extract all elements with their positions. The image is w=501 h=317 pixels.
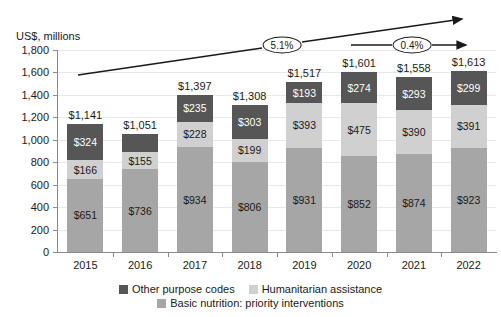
x-axis-tick-mark bbox=[441, 252, 442, 257]
bar-segment[interactable]: $228 bbox=[177, 122, 213, 148]
legend-item[interactable]: Other purpose codes bbox=[119, 283, 235, 295]
bar-segment[interactable]: $806 bbox=[232, 162, 268, 252]
growth-badge-5-1: 5.1% bbox=[263, 37, 302, 54]
legend-item[interactable]: Humanitarian assistance bbox=[249, 283, 382, 295]
y-axis-tick-label: 1,400 bbox=[5, 89, 49, 101]
bar-total-label: $1,308 bbox=[233, 90, 267, 102]
trend-line-long-tail bbox=[302, 19, 462, 42]
bar-stack[interactable]: $923$391$299$1,613 bbox=[451, 71, 487, 252]
legend-item-label: Basic nutrition: priority interventions bbox=[170, 297, 344, 309]
bar-segment[interactable]: $931 bbox=[286, 148, 322, 252]
bar-segment[interactable]: $923 bbox=[451, 148, 487, 252]
x-axis-tick-mark bbox=[277, 252, 278, 257]
bar-stack[interactable]: $806$199$303$1,308 bbox=[232, 105, 268, 252]
y-axis-tick-label: 400 bbox=[5, 201, 49, 213]
bar-segment[interactable]: $274 bbox=[341, 72, 377, 103]
bar-total-label: $1,141 bbox=[69, 109, 103, 121]
bar-segment[interactable]: $934 bbox=[177, 147, 213, 252]
x-axis-category-label: 2020 bbox=[347, 259, 371, 271]
bar-stack[interactable]: $852$475$274$1,601 bbox=[341, 72, 377, 252]
bar-stack[interactable]: $874$390$293$1,558 bbox=[396, 77, 432, 252]
y-axis-tick-label: 1,600 bbox=[5, 66, 49, 78]
bar-segment[interactable]: $303 bbox=[232, 105, 268, 139]
bar-total-label: $1,613 bbox=[452, 56, 486, 68]
bar-stack[interactable]: $934$228$235$1,397 bbox=[177, 95, 213, 252]
legend-swatch-icon bbox=[249, 285, 258, 294]
bar-segment[interactable]: $235 bbox=[177, 95, 213, 121]
y-axis-tick-label: 600 bbox=[5, 179, 49, 191]
bar-total-label: $1,397 bbox=[178, 80, 212, 92]
y-axis-tick-label: 200 bbox=[5, 224, 49, 236]
x-axis-category-label: 2017 bbox=[183, 259, 207, 271]
bar-segment[interactable]: $293 bbox=[396, 77, 432, 110]
legend-item-label: Humanitarian assistance bbox=[262, 283, 382, 295]
bar-segment[interactable]: $193 bbox=[286, 82, 322, 104]
y-axis-tick-label: 0 bbox=[5, 246, 49, 258]
y-axis-title: US$, millions bbox=[16, 30, 80, 42]
legend-item[interactable]: Basic nutrition: priority interventions bbox=[157, 297, 344, 309]
bar-segment[interactable]: $651 bbox=[67, 179, 103, 252]
y-axis-tick-label: 1,200 bbox=[5, 111, 49, 123]
bar-stack[interactable]: $736$155$1,051 bbox=[122, 134, 158, 252]
y-axis-tick-label: 1,000 bbox=[5, 134, 49, 146]
x-axis-category-label: 2015 bbox=[73, 259, 97, 271]
legend-item-label: Other purpose codes bbox=[132, 283, 235, 295]
bar-segment[interactable]: $166 bbox=[67, 160, 103, 179]
y-axis-tick-label: 1,800 bbox=[5, 44, 49, 56]
bar-segment[interactable]: $736 bbox=[122, 169, 158, 252]
bar-total-label: $1,517 bbox=[288, 67, 322, 79]
bar-segment[interactable]: $393 bbox=[286, 103, 322, 147]
bar-stack[interactable]: $651$166$324$1,141 bbox=[67, 124, 103, 252]
bar-segment[interactable]: $199 bbox=[232, 139, 268, 161]
x-axis-tick-mark bbox=[332, 252, 333, 257]
x-axis-category-label: 2019 bbox=[292, 259, 316, 271]
x-axis-category-label: 2018 bbox=[237, 259, 261, 271]
bar-segment[interactable]: $852 bbox=[341, 156, 377, 252]
bar-total-label: $1,558 bbox=[397, 62, 431, 74]
bar-total-label: $1,051 bbox=[123, 119, 157, 131]
x-axis-tick-mark bbox=[168, 252, 169, 257]
bar-stack[interactable]: $931$393$193$1,517 bbox=[286, 82, 322, 252]
legend-row-secondary: Basic nutrition: priority interventions bbox=[0, 297, 501, 309]
chart-legend: Other purpose codesHumanitarian assistan… bbox=[0, 281, 501, 309]
bar-segment[interactable]: $299 bbox=[451, 71, 487, 105]
bar-total-label: $1,601 bbox=[342, 57, 376, 69]
stacked-bar-chart: US$, millions 02004006008001,0001,2001,4… bbox=[0, 0, 501, 317]
legend-row-primary: Other purpose codesHumanitarian assistan… bbox=[0, 283, 501, 295]
y-axis-tick-mark bbox=[53, 252, 58, 253]
x-axis-tick-mark bbox=[113, 252, 114, 257]
bar-segment[interactable]: $475 bbox=[341, 103, 377, 156]
x-axis-category-label: 2022 bbox=[456, 259, 480, 271]
growth-badge-0-4: 0.4% bbox=[393, 37, 432, 54]
legend-swatch-icon bbox=[119, 285, 128, 294]
x-axis-category-label: 2021 bbox=[402, 259, 426, 271]
legend-swatch-icon bbox=[157, 299, 166, 308]
x-axis-tick-mark bbox=[387, 252, 388, 257]
y-axis-tick-label: 800 bbox=[5, 156, 49, 168]
bar-segment[interactable]: $155 bbox=[122, 152, 158, 169]
bars-area: $651$166$324$1,141$736$155$1,051$934$228… bbox=[58, 50, 496, 252]
bar-segment[interactable]: $390 bbox=[396, 110, 432, 154]
bar-segment[interactable]: $324 bbox=[67, 124, 103, 160]
bar-segment[interactable]: $874 bbox=[396, 154, 432, 252]
x-axis-category-label: 2016 bbox=[128, 259, 152, 271]
bar-segment[interactable]: $391 bbox=[451, 105, 487, 149]
x-axis-tick-mark bbox=[222, 252, 223, 257]
bar-segment[interactable] bbox=[122, 134, 158, 152]
